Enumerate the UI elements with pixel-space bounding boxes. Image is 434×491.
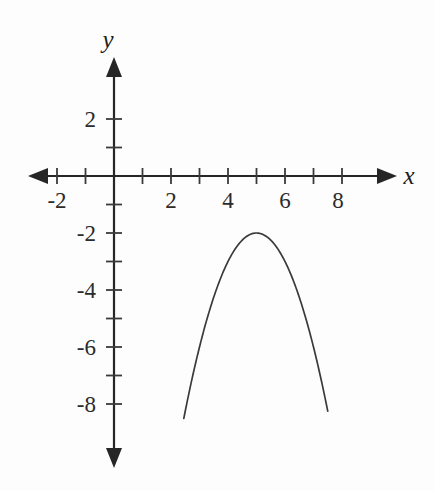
y-tick-label--4: -4 [77, 278, 97, 303]
graph-figure: -2 2 4 6 8 2 -2 -4 -6 -8 y x [0, 0, 434, 491]
coordinate-plane-svg: -2 2 4 6 8 2 -2 -4 -6 -8 y x [0, 0, 434, 491]
parabola-curve [184, 233, 328, 418]
y-axis-up-arrow-icon [106, 57, 122, 77]
x-axis-left-arrow-icon [28, 168, 48, 184]
x-tick-label-2: 2 [165, 188, 177, 213]
x-tick-label--2: -2 [47, 188, 66, 213]
x-tick-label-4: 4 [222, 188, 234, 213]
x-tick-label-6: 6 [279, 188, 291, 213]
y-tick-label--2: -2 [77, 221, 96, 246]
x-tick-label-8: 8 [332, 188, 344, 213]
x-axis-label: x [402, 162, 414, 189]
y-tick-label--8: -8 [77, 392, 96, 417]
y-tick-label--6: -6 [77, 335, 96, 360]
y-axis-down-arrow-icon [106, 448, 122, 468]
y-axis-label: y [99, 26, 114, 53]
x-axis-right-arrow-icon [377, 168, 397, 184]
y-tick-label-2: 2 [85, 107, 97, 132]
